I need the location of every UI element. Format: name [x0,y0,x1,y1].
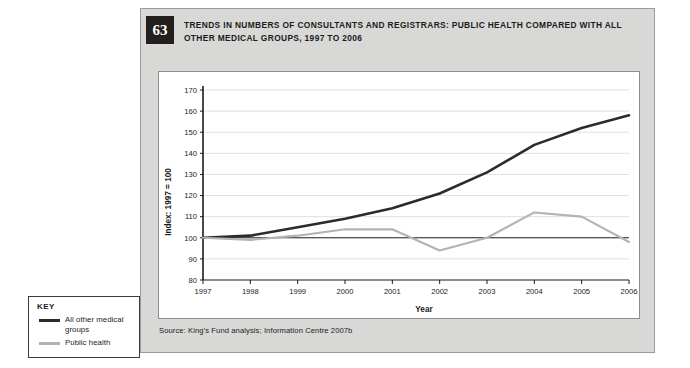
chart-plot-panel: 8090100110120130140150160170 19971998199… [158,71,640,319]
y-axis-tick-labels: 8090100110120130140150160170 [184,86,203,285]
svg-text:100: 100 [184,234,197,243]
svg-text:170: 170 [184,86,197,95]
svg-text:80: 80 [189,276,197,285]
line-chart-svg: 8090100110120130140150160170 19971998199… [159,72,639,318]
svg-text:130: 130 [184,170,197,179]
svg-text:160: 160 [184,107,197,116]
svg-text:1997: 1997 [195,287,212,296]
svg-text:2000: 2000 [337,287,354,296]
svg-text:120: 120 [184,191,197,200]
svg-text:2006: 2006 [621,287,638,296]
svg-text:2002: 2002 [431,287,448,296]
svg-text:2001: 2001 [384,287,401,296]
svg-text:2005: 2005 [573,287,590,296]
figure-container: 63 TRENDS IN NUMBERS OF CONSULTANTS AND … [140,8,655,353]
key-title: KEY [37,302,133,311]
key-swatch-dark-line-icon [39,319,60,322]
figure-title: TRENDS IN NUMBERS OF CONSULTANTS AND REG… [184,19,640,44]
key-entry-all-other-medical-groups: All other medical groups [37,315,133,335]
svg-text:2004: 2004 [526,287,543,296]
key-entry-public-health: Public health [37,338,133,348]
y-axis-title: Index: 1997 = 100 [164,168,173,236]
svg-text:110: 110 [185,212,197,221]
svg-text:2003: 2003 [479,287,496,296]
svg-text:140: 140 [184,149,197,158]
key-swatch-light-line-icon [39,342,60,345]
svg-text:90: 90 [189,255,197,264]
figure-number-badge: 63 [146,16,174,44]
key-label-public-health: Public health [65,338,110,348]
svg-text:1999: 1999 [289,287,306,296]
axis-lines [203,86,629,280]
x-axis-tick-labels: 1997199819992000200120022003200420052006 [195,280,638,296]
data-series-group [203,115,629,250]
x-axis-title: Year [415,305,433,314]
key-label-all-other-medical-groups: All other medical groups [65,315,133,335]
figure-header: 63 TRENDS IN NUMBERS OF CONSULTANTS AND … [141,9,654,59]
svg-text:1998: 1998 [242,287,259,296]
chart-source-note: Source: King's Fund analysis; Informatio… [159,326,352,335]
chart-key-box: KEY All other medical groups Public heal… [28,296,140,358]
svg-text:150: 150 [184,128,197,137]
